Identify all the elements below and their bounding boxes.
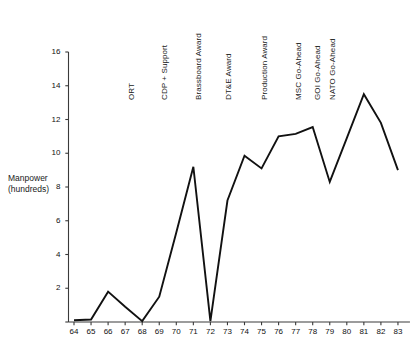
plot-area (0, 0, 418, 350)
data-line-manpower (74, 94, 398, 321)
axes-group (65, 52, 410, 325)
manpower-line-chart: Manpower (hundreds) ORTCDP + SupportBras… (0, 0, 418, 350)
